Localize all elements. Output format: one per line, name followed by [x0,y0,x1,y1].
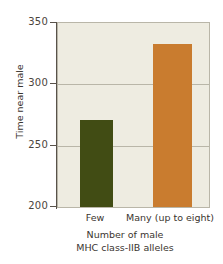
x-tick-label-few: Few [62,212,128,223]
x-axis-title-line1: Number of male [30,228,220,241]
plot-area [57,22,210,208]
y-tick-200 [50,206,57,207]
y-tick-label-350: 350 [18,16,48,27]
y-tick-label-350-wrap: 350 [15,16,48,28]
bar-many [153,44,192,207]
y-axis-title: Time near male [14,47,25,157]
y-tick-350 [50,22,57,23]
bar-few [80,120,113,207]
y-tick-label-200: 200 [18,200,48,211]
y-tick-300 [50,83,57,84]
y-axis-line [56,22,57,209]
y-tick-250 [50,145,57,146]
bar-chart-figure: 350 300 250 200 Time near male Few Many … [0,0,223,264]
y-tick-label-200-wrap: 200 [15,200,48,212]
x-axis-title: Number of male MHC class-IIB alleles [30,228,220,254]
x-tick-label-many: Many (up to eight) [120,212,220,223]
x-axis-title-line2: MHC class-IIB alleles [30,241,220,254]
